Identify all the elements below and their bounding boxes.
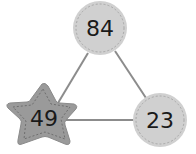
edge-top-right bbox=[115, 51, 146, 98]
node-left-star: 49 bbox=[7, 83, 77, 144]
node-right-value: 23 bbox=[146, 108, 174, 133]
triangle-diagram: 84 23 49 bbox=[0, 0, 196, 154]
node-top-value: 84 bbox=[86, 16, 114, 41]
node-top: 84 bbox=[73, 1, 127, 55]
node-left-value: 49 bbox=[30, 106, 58, 131]
edge-top-left bbox=[58, 53, 88, 103]
node-right: 23 bbox=[133, 93, 187, 147]
